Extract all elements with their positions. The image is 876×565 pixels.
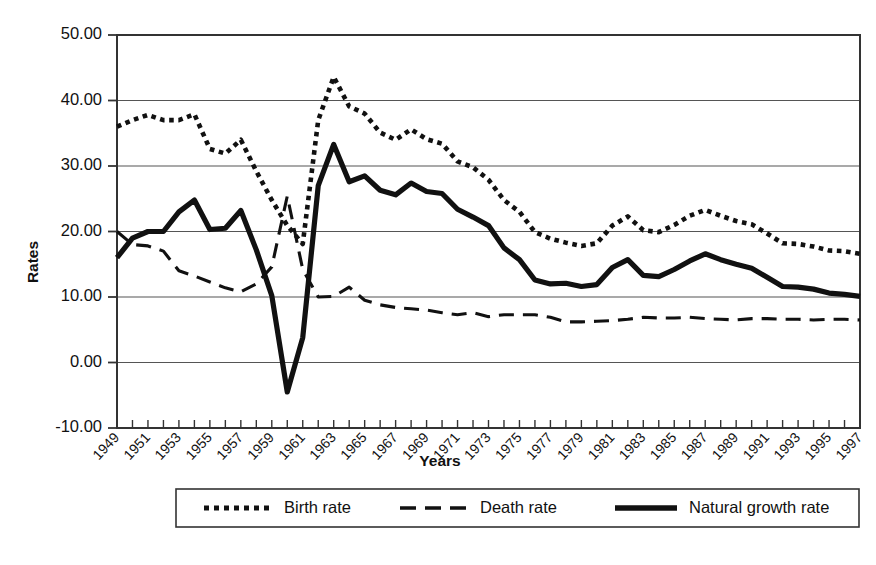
legend: Birth rateDeath rateNatural growth rate [176, 489, 859, 527]
x-axis-tick-labels: 1949195119531955195719591961196319651967… [89, 429, 865, 463]
legend-label: Natural growth rate [689, 498, 829, 516]
y-axis-tick-labels: -10.000.0010.0020.0030.0040.0050.00 [55, 24, 102, 435]
x-axis-tick-label: 1973 [461, 429, 494, 463]
x-axis-tick-label: 1993 [770, 429, 803, 463]
y-axis-tick-label: 40.00 [61, 90, 102, 108]
x-axis-tick-label: 1991 [739, 429, 772, 463]
series-line-death-rate [117, 196, 860, 322]
y-axis-tick-label: 50.00 [61, 24, 102, 42]
y-axis-title: Rates [24, 241, 41, 283]
legend-label: Death rate [480, 498, 557, 516]
x-axis-tick-label: 1981 [585, 429, 618, 463]
x-axis-tick-label: 1977 [523, 429, 556, 463]
x-axis-tick-label: 1989 [708, 429, 741, 463]
x-axis-tick-label: 1959 [244, 429, 277, 463]
data-series [117, 77, 860, 392]
x-axis-ticks [117, 420, 860, 428]
x-axis-tick-label: 1965 [337, 429, 370, 463]
x-axis-tick-label: 1985 [646, 429, 679, 463]
x-axis-tick-label: 1983 [616, 429, 649, 463]
x-axis-title: Years [419, 452, 460, 469]
x-axis-tick-label: 1967 [368, 429, 401, 463]
x-axis-tick-label: 1953 [151, 429, 184, 463]
legend-label: Birth rate [284, 498, 351, 516]
x-axis-tick-label: 1957 [213, 429, 246, 463]
x-axis-tick-label: 1961 [275, 429, 308, 463]
y-axis-tick-label: -10.00 [55, 417, 102, 435]
x-axis-tick-label: 1979 [554, 429, 587, 463]
x-axis-tick-label: 1951 [120, 429, 153, 463]
grid-lines [117, 101, 860, 363]
y-axis-tick-label: 10.00 [61, 286, 102, 304]
x-axis-tick-label: 1955 [182, 429, 215, 463]
x-axis-tick-label: 1987 [677, 429, 710, 463]
x-axis-tick-label: 1963 [306, 429, 339, 463]
x-axis-tick-label: 1997 [832, 429, 865, 463]
y-axis-tick-label: 0.00 [70, 352, 102, 370]
chart-container: -10.000.0010.0020.0030.0040.0050.00 1949… [0, 0, 876, 565]
y-axis-ticks [108, 35, 117, 428]
y-axis-tick-label: 30.00 [61, 155, 102, 173]
x-axis-tick-label: 1995 [801, 429, 834, 463]
rates-line-chart: -10.000.0010.0020.0030.0040.0050.00 1949… [0, 0, 876, 565]
x-axis-tick-label: 1975 [492, 429, 525, 463]
y-axis-tick-label: 20.00 [61, 221, 102, 239]
